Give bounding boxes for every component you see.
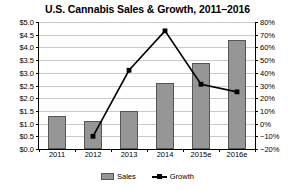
right-axis-tick-mark: [255, 47, 258, 48]
chart-legend: SalesGrowth: [0, 172, 295, 181]
left-axis-tick-label: $3.0: [19, 68, 34, 77]
growth-data-point: [163, 28, 168, 33]
right-axis-tick-label: −10%: [260, 132, 279, 141]
right-axis-tick-mark: [255, 60, 258, 61]
x-axis-tick-label: 2016e: [227, 150, 248, 159]
chart-container: U.S. Cannabis Sales & Growth, 2011–2016 …: [0, 0, 295, 190]
growth-data-point: [127, 68, 132, 73]
right-axis-tick-label: 60%: [260, 43, 275, 52]
right-axis-tick-label: 80%: [260, 18, 275, 27]
x-axis-tick-mark: [39, 149, 40, 152]
growth-data-point: [199, 82, 204, 87]
x-axis-tick-label: 2012: [85, 150, 102, 159]
legend-bar-swatch-icon: [101, 173, 114, 180]
right-axis-tick-mark: [255, 136, 258, 137]
plot-area: $0.0$0.5$1.0$1.5$2.0$2.5$3.0$3.5$4.0$4.5…: [38, 22, 256, 150]
legend-label: Growth: [170, 172, 194, 181]
left-axis-tick-label: $1.5: [19, 106, 34, 115]
x-axis-tick-mark: [147, 149, 148, 152]
left-axis-tick-label: $0.0: [19, 145, 34, 154]
left-axis-tick-label: $1.0: [19, 119, 34, 128]
right-axis-tick-label: 50%: [260, 56, 275, 65]
x-axis-tick-mark: [183, 149, 184, 152]
right-axis-tick-label: 10%: [260, 106, 275, 115]
left-axis-tick-label: $0.5: [19, 132, 34, 141]
x-axis-tick-mark: [219, 149, 220, 152]
x-axis-tick-label: 2014: [157, 150, 174, 159]
right-axis-tick-mark: [255, 22, 258, 23]
right-axis-tick-mark: [255, 111, 258, 112]
chart-title: U.S. Cannabis Sales & Growth, 2011–2016: [0, 3, 295, 15]
growth-data-point: [91, 134, 96, 139]
left-axis-tick-label: $2.5: [19, 81, 34, 90]
left-axis-tick-label: $5.0: [19, 18, 34, 27]
legend-line-marker-icon: [152, 173, 167, 180]
x-axis-tick-label: 2013: [121, 150, 138, 159]
right-axis-tick-mark: [255, 98, 258, 99]
x-axis-tick-label: 2015e: [191, 150, 212, 159]
legend-item: Sales: [101, 172, 136, 181]
right-axis-tick-mark: [255, 73, 258, 74]
right-axis-tick-label: −20%: [260, 145, 279, 154]
right-axis-tick-label: 30%: [260, 81, 275, 90]
right-axis-tick-label: 20%: [260, 94, 275, 103]
x-axis-tick-label: 2011: [49, 150, 65, 159]
right-axis-tick-label: 40%: [260, 68, 275, 77]
legend-item: Growth: [152, 172, 194, 181]
legend-label: Sales: [117, 172, 136, 181]
right-axis-tick-mark: [255, 124, 258, 125]
left-axis-tick-label: $4.0: [19, 43, 34, 52]
x-axis-tick-mark: [255, 149, 256, 152]
x-axis-tick-mark: [111, 149, 112, 152]
right-axis-tick-mark: [255, 86, 258, 87]
left-axis-tick-label: $3.5: [19, 56, 34, 65]
left-axis-tick-label: $2.0: [19, 94, 34, 103]
left-axis-tick-label: $4.5: [19, 30, 34, 39]
growth-data-point: [235, 89, 240, 94]
right-axis-tick-label: 70%: [260, 30, 275, 39]
x-axis-tick-mark: [75, 149, 76, 152]
right-axis-tick-mark: [255, 35, 258, 36]
line-series-growth: [39, 22, 255, 149]
growth-line-path: [93, 31, 237, 136]
right-axis-tick-label: 0%: [260, 119, 271, 128]
